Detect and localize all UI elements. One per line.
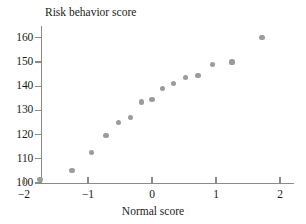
x-tick (215, 177, 216, 184)
y-tick-label: 160 (5, 32, 33, 44)
y-tick (35, 86, 42, 87)
y-tick (35, 37, 42, 38)
y-tick (35, 158, 42, 159)
normal-probability-plot: Risk behavior score 10011012013014015016… (0, 0, 306, 224)
y-tick-label: 120 (5, 129, 33, 141)
data-point (195, 73, 200, 78)
data-point (116, 120, 121, 125)
x-axis-title: Normal score (0, 205, 306, 218)
data-point (103, 133, 108, 138)
data-point (37, 177, 42, 182)
y-axis-line (41, 26, 42, 184)
x-tick (23, 177, 24, 184)
y-tick-label: 140 (5, 80, 33, 92)
x-tick (87, 177, 88, 184)
y-tick (35, 182, 42, 183)
x-tick (279, 177, 280, 184)
x-tick-label: 1 (204, 188, 228, 200)
data-point (160, 86, 165, 91)
y-tick (35, 134, 42, 135)
data-point (229, 59, 234, 64)
data-point (259, 35, 264, 40)
x-tick-label: 0 (140, 188, 164, 200)
x-tick (151, 177, 152, 184)
data-point (183, 75, 188, 80)
y-tick (35, 61, 42, 62)
data-point (69, 168, 74, 173)
y-tick-label: 110 (5, 153, 33, 165)
data-point (139, 99, 144, 104)
x-tick-label: 2 (268, 188, 292, 200)
y-tick-label: 130 (5, 104, 33, 116)
y-tick (35, 110, 42, 111)
data-point (210, 62, 215, 67)
x-tick-label: −1 (76, 188, 100, 200)
x-axis-line (41, 183, 294, 184)
data-point (128, 115, 133, 120)
data-point (171, 81, 176, 86)
y-tick-label: 100 (5, 177, 33, 189)
plot-area: 100110120130140150160 −2−1012 (0, 0, 306, 224)
x-tick-label: −2 (12, 188, 36, 200)
data-point (89, 150, 94, 155)
y-tick-label: 150 (5, 56, 33, 68)
data-point (149, 97, 154, 102)
